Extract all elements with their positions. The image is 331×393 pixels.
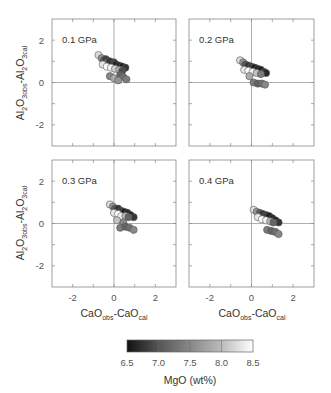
data-point: [275, 230, 282, 237]
colorbar-tick-label: 8.5: [246, 357, 259, 368]
y-tick-label: 2: [39, 35, 44, 46]
y-tick-label: 0: [39, 218, 44, 229]
data-point: [257, 70, 264, 77]
pressure-label: 0.3 GPa: [62, 175, 98, 186]
data-point: [115, 77, 122, 84]
data-point: [261, 81, 268, 88]
x-tick-label: 2: [153, 292, 158, 303]
colorbar-tick-label: 7.5: [183, 357, 196, 368]
data-point: [246, 73, 253, 80]
colorbar-label: MgO (wt%): [164, 374, 217, 386]
data-point: [123, 76, 130, 83]
figure: -2020.1 GPa0.2 GPa-202-2020.3 GPa-2020.4…: [0, 0, 331, 393]
x-tick-label: 0: [111, 292, 116, 303]
x-tick-label: -2: [206, 292, 214, 303]
y-tick-label: 0: [39, 77, 44, 88]
svg-text:Al2O3obs-Al2O3cal: Al2O3obs-Al2O3cal: [14, 45, 28, 120]
data-point: [270, 219, 277, 226]
panel-3: -202-2020.3 GPa: [36, 160, 176, 303]
panels: -2020.1 GPa0.2 GPa-202-2020.3 GPa-2020.4…: [36, 19, 314, 303]
panel-2: 0.2 GPa: [189, 19, 314, 146]
panel-4: -2020.4 GPa: [189, 160, 314, 303]
colorbar-tick-label: 8.0: [215, 357, 228, 368]
x-axis-label-left: CaOobs-CaOcal: [81, 307, 148, 321]
pressure-label: 0.1 GPa: [62, 34, 98, 45]
x-tick-label: -2: [68, 292, 76, 303]
x-tick-label: 2: [291, 292, 296, 303]
x-tick-label: 0: [249, 292, 254, 303]
y-axis-label-top: Al2O3obs-Al2O3cal: [14, 45, 28, 120]
y-tick-label: 2: [39, 176, 44, 187]
y-tick-label: -2: [36, 260, 44, 271]
y-axis-label-bottom: Al2O3obs-Al2O3cal: [14, 185, 28, 260]
pressure-label: 0.2 GPa: [199, 34, 235, 45]
panel-1: -2020.1 GPa: [36, 19, 176, 146]
x-axis-label-right: CaOobs-CaOcal: [219, 307, 286, 321]
colorbar-tick-label: 6.5: [120, 357, 133, 368]
pressure-label: 0.4 GPa: [199, 175, 235, 186]
colorbar-tick-label: 7.0: [152, 357, 165, 368]
y-tick-label: -2: [36, 119, 44, 130]
svg-text:Al2O3obs-Al2O3cal: Al2O3obs-Al2O3cal: [14, 185, 28, 260]
data-point: [130, 226, 137, 233]
colorbar: 6.57.07.58.08.5 MgO (wt%): [120, 340, 259, 386]
